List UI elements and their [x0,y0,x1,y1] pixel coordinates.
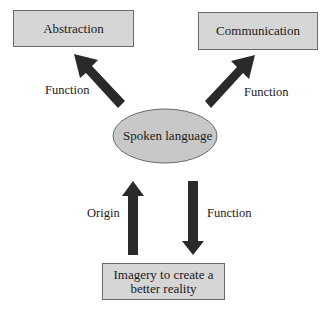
function-label-right: Function [244,85,288,100]
function-label-left: Function [45,83,89,98]
abstraction-label: Abstraction [43,22,104,36]
arrow-origin-up [122,181,144,255]
origin-label: Origin [87,206,120,221]
imagery-box: Imagery to create a better reality [102,263,225,300]
arrow-function-down [182,181,204,255]
arrow-to-communication [205,55,255,108]
abstraction-box: Abstraction [13,10,134,47]
communication-label: Communication [216,24,300,38]
imagery-label: Imagery to create a better reality [109,268,218,296]
function-label-bottom: Function [207,206,251,221]
arrow-to-abstraction [74,54,125,108]
communication-box: Communication [198,12,318,50]
spoken-language-label: Spoken language [123,128,212,144]
